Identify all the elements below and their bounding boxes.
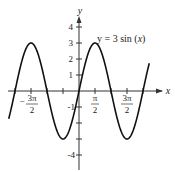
y-tick-label-3: 3: [69, 38, 74, 48]
x-tick-label-3pi-over-2: 3π 2: [121, 93, 133, 115]
y-tick-label-neg1: -1: [68, 102, 76, 112]
svg-text:3π: 3π: [27, 93, 37, 103]
svg-text:2: 2: [93, 105, 98, 115]
svg-text:2: 2: [30, 105, 35, 115]
svg-text:3π: 3π: [122, 93, 132, 103]
x-tick-label-pi-over-2: π 2: [91, 93, 99, 115]
y-tick-label-neg4: -4: [68, 150, 76, 160]
svg-text:2: 2: [125, 105, 130, 115]
y-tick-label-2: 2: [69, 54, 74, 64]
y-axis-label: y: [77, 5, 83, 16]
equation-label: y = 3 sin (x): [97, 33, 145, 45]
x-tick-label-neg-3pi-over-2: − 3π 2: [19, 93, 38, 115]
sine-chart: 4 3 2 1 -1 -4 y x − 3π 2 π 2 3π 2 y = 3 …: [0, 0, 175, 172]
x-axis-label: x: [165, 85, 171, 96]
svg-text:−: −: [19, 96, 24, 106]
svg-text:π: π: [93, 93, 98, 103]
y-axis-arrow-icon: [77, 16, 82, 23]
x-axis-arrow-icon: [156, 89, 163, 94]
y-tick-label-4: 4: [69, 22, 74, 32]
y-tick-label-1: 1: [69, 70, 74, 80]
